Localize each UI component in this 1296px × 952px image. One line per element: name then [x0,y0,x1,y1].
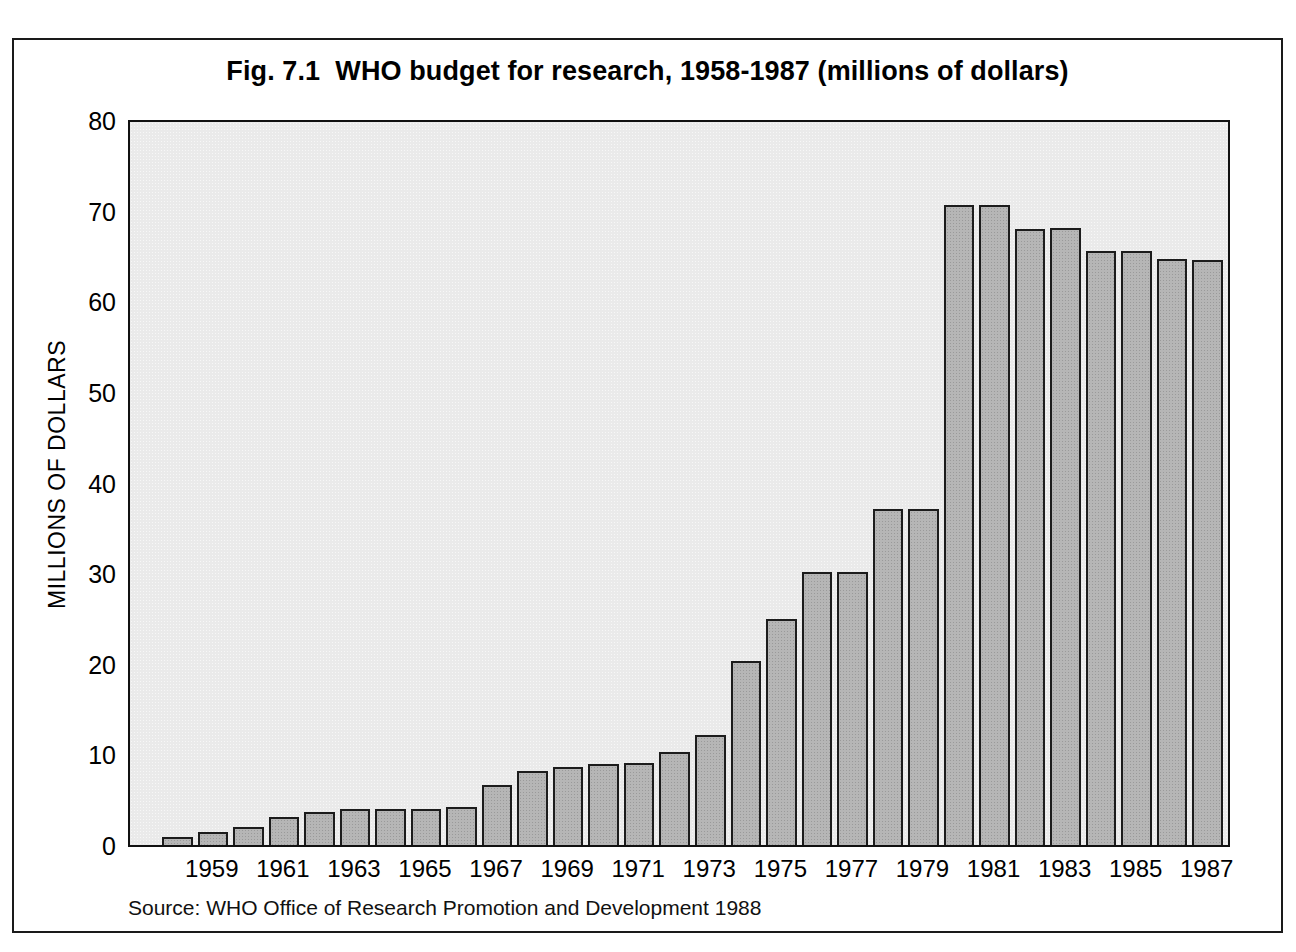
bar [162,837,193,845]
bar [802,572,833,845]
bar [340,809,371,845]
y-tick-label: 10 [14,741,116,770]
bar [269,817,300,845]
y-tick-label: 20 [14,650,116,679]
x-tick-label: 1973 [683,855,736,883]
bar [198,832,229,845]
x-tick-label: 1981 [967,855,1020,883]
bar [1121,251,1152,845]
bar [1050,228,1081,845]
plot-area [128,120,1230,847]
x-tick-label: 1961 [256,855,309,883]
x-tick-label: 1977 [825,855,878,883]
bar [375,809,406,845]
bar [766,619,797,845]
y-tick-label: 30 [14,560,116,589]
bar [837,572,868,845]
x-tick-label: 1987 [1180,855,1233,883]
x-tick-label: 1969 [540,855,593,883]
bar [1086,251,1117,845]
bar [695,735,726,845]
bar [517,771,548,845]
y-tick-label: 80 [14,107,116,136]
y-tick-label: 70 [14,197,116,226]
bar [1157,259,1188,845]
bar [979,205,1010,845]
x-tick-label: 1959 [185,855,238,883]
bar [1192,260,1223,845]
source-note: Source: WHO Office of Research Promotion… [128,896,761,920]
bar [944,205,975,845]
x-tick-label: 1965 [398,855,451,883]
bar [411,809,442,845]
x-tick-label: 1985 [1109,855,1162,883]
y-tick-label: 60 [14,288,116,317]
bars-layer [130,122,1228,845]
y-tick-label: 40 [14,469,116,498]
bar [482,785,513,845]
bar [304,812,335,845]
bar [624,763,655,845]
bar [446,807,477,845]
x-tick-label: 1967 [469,855,522,883]
bar [553,767,584,845]
bar [908,509,939,845]
figure-frame: Fig. 7.1 WHO budget for research, 1958-1… [12,38,1283,933]
y-tick-label: 0 [14,832,116,861]
x-tick-label: 1963 [327,855,380,883]
x-tick-label: 1979 [896,855,949,883]
bar [1015,229,1046,845]
x-tick-label: 1975 [754,855,807,883]
page-title: Fig. 7.1 WHO budget for research, 1958-1… [14,56,1281,87]
x-tick-label: 1983 [1038,855,1091,883]
bar [731,661,762,845]
x-tick-label: 1971 [611,855,664,883]
bar [233,827,264,845]
bar [873,509,904,845]
bar [659,752,690,845]
bar [588,764,619,845]
y-tick-label: 50 [14,378,116,407]
